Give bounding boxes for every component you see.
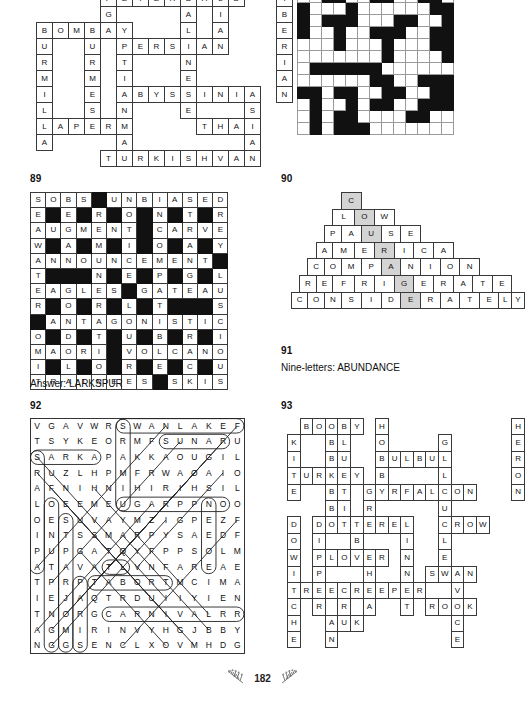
grid-cell-empty	[464, 468, 477, 484]
grid-cell-letter: R	[300, 582, 313, 598]
grid-cell-letter: E	[438, 550, 451, 566]
puzzle-number-90: 90	[281, 173, 293, 184]
cats-crossword-table: PETERBALDIGAIBBOMBAYLAEUUPERSIANRRRTNIMM…	[36, 0, 293, 167]
grid-cell-empty	[69, 7, 85, 23]
grid-cell-empty	[101, 87, 117, 103]
pattern-cell-empty	[430, 51, 442, 63]
grid-cell-letter: C	[438, 484, 451, 500]
grid-cell-empty	[500, 484, 511, 500]
grid-cell-empty	[261, 55, 277, 71]
pattern-cell-empty	[298, 75, 310, 87]
pattern-cell-filled	[358, 123, 370, 135]
grid-cell-letter: A	[451, 566, 464, 582]
pyramid-cell: O	[440, 259, 460, 276]
grid-cell-empty	[197, 71, 213, 87]
word-search-letter: L	[73, 465, 87, 481]
grid-cell-letter: A	[167, 193, 182, 208]
grid-cell-empty	[451, 419, 464, 435]
pattern-cell-empty	[382, 63, 394, 75]
grid-cell-letter: O	[325, 517, 338, 533]
pattern-cell-empty	[418, 123, 430, 135]
grid-row: IBUBULBULR	[288, 451, 525, 467]
grid-cell-block	[198, 360, 213, 375]
pattern-cell-empty	[322, 123, 334, 135]
grid-cell-empty	[500, 566, 511, 582]
word-search-letter: V	[130, 559, 144, 575]
grid-cell-letter: A	[37, 135, 53, 151]
grid-cell-empty	[363, 468, 376, 484]
pattern-cell-filled	[442, 87, 454, 99]
grid-cell-block	[76, 360, 91, 375]
grid-cell-block	[106, 208, 121, 223]
grid-cell-letter: M	[76, 223, 91, 238]
grid-cell-letter: O	[122, 314, 137, 329]
pattern-cell-filled	[334, 15, 346, 27]
pyramid-cell: N	[324, 292, 341, 309]
grid-cell-letter: I	[288, 451, 301, 467]
grid-cell-letter: O	[288, 533, 301, 549]
grid-cell-letter: V	[122, 344, 137, 359]
grid-cell-letter: L	[37, 103, 53, 119]
pattern-cell-empty	[406, 39, 418, 51]
word-search-letter: R	[144, 465, 158, 481]
word-search-letter: O	[187, 465, 201, 481]
word-search-letter: S	[202, 481, 216, 497]
grid-row: RORLTS	[31, 299, 228, 314]
grid-cell-letter: A	[31, 253, 46, 268]
grid-cell-letter: L	[37, 119, 53, 135]
grid-cell-block	[152, 375, 167, 390]
word-search-letter: N	[44, 606, 58, 622]
pyramid-cell: R	[355, 275, 375, 292]
word-search-letter: T	[159, 575, 173, 591]
word-search-letter: A	[216, 559, 230, 575]
grid-cell-empty	[300, 435, 313, 451]
pyramid-cell: W	[374, 209, 394, 226]
grid-cell-letter: I	[37, 87, 53, 103]
grid-cell-empty	[489, 451, 500, 467]
pattern-cell-filled	[442, 99, 454, 111]
pattern-cell-empty	[382, 3, 394, 15]
grid-cell-empty	[500, 632, 511, 648]
grid-cell-letter: I	[198, 375, 213, 390]
pattern-cell-filled	[382, 75, 394, 87]
grid-cell-empty	[53, 55, 69, 71]
grid-cell-empty	[489, 484, 500, 500]
pattern-cell-empty	[442, 111, 454, 123]
word-search-letter: Y	[116, 512, 130, 528]
grid-row: BOMBAYLAE	[37, 23, 293, 39]
grid-cell-letter: B	[300, 419, 313, 435]
grid-cell-letter: S	[181, 151, 197, 167]
pyramid-cell: M	[341, 259, 361, 276]
grid-row: ANTAGONISTIC	[31, 314, 228, 329]
word-search-letter: D	[216, 528, 230, 544]
pyramid-cell: M	[333, 242, 355, 259]
grid-cell-letter: C	[167, 344, 182, 359]
grid-cell-empty	[426, 500, 439, 516]
pyramid-cell: A	[316, 242, 333, 259]
word-search-letter: C	[187, 575, 201, 591]
grid-cell-letter: H	[363, 566, 376, 582]
grid-cell-empty	[325, 566, 338, 582]
grid-cell-block	[91, 193, 106, 208]
grid-cell-letter: B	[376, 451, 389, 467]
grid-cell-letter: E	[167, 253, 182, 268]
grid-cell-letter: S	[213, 375, 228, 390]
word-search-letter: K	[73, 434, 87, 450]
word-search-letter: H	[130, 481, 144, 497]
grid-row: AAA	[37, 135, 293, 151]
grid-cell-empty	[388, 632, 401, 648]
grid-cell-letter: R	[413, 582, 426, 598]
grid-cell-letter: R	[149, 39, 165, 55]
word-search-letter: F	[130, 465, 144, 481]
grid-cell-letter: B	[338, 419, 351, 435]
grid-cell-block	[137, 299, 152, 314]
grid-cell-letter: C	[288, 599, 301, 615]
pattern-row	[298, 63, 454, 75]
grid-cell-letter: T	[152, 299, 167, 314]
grid-cell-letter: I	[198, 314, 213, 329]
grid-row: UUPERSIANR	[37, 39, 293, 55]
grid-cell-letter: A	[117, 87, 133, 103]
grid-cell-empty	[229, 135, 245, 151]
grid-cell-letter: C	[338, 582, 351, 598]
grid-cell-empty	[133, 23, 149, 39]
